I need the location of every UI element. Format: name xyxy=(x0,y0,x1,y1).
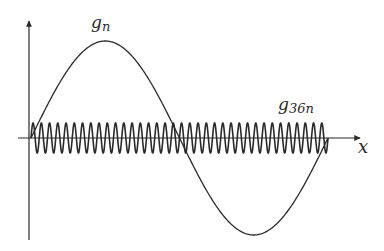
label-g36n-sub: 36n xyxy=(289,101,314,116)
label-g36n-base: g xyxy=(278,94,289,114)
label-gn-sub: n xyxy=(102,19,110,34)
label-g36n: g36n xyxy=(278,94,314,116)
label-gn-base: g xyxy=(91,12,102,32)
label-gn: gn xyxy=(91,12,110,34)
function-plot: gn g36n x xyxy=(0,0,384,251)
x-axis-label: x xyxy=(358,136,368,157)
